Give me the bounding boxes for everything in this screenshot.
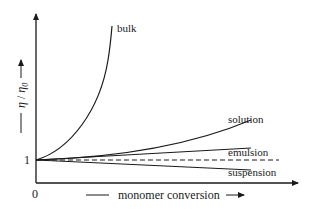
label-solution: solution	[228, 113, 264, 125]
series-suspension	[36, 160, 251, 170]
x-axis-title: monomer conversion	[118, 188, 220, 202]
series-bulk	[36, 26, 112, 160]
viscosity-chart: bulk solution emulsion suspension 1 0 mo…	[0, 0, 310, 210]
label-emulsion: emulsion	[228, 146, 269, 158]
x-axis-label: monomer conversion	[86, 188, 244, 202]
label-bulk: bulk	[117, 22, 137, 34]
x-tick-0: 0	[32, 187, 38, 201]
y-axis-title: η / η0	[14, 83, 30, 108]
y-tick-1: 1	[24, 153, 30, 167]
y-axis-label: η / η0	[14, 60, 30, 133]
label-suspension: suspension	[228, 166, 277, 178]
